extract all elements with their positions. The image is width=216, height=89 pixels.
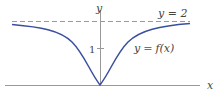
tick-label-1: 1: [89, 44, 95, 55]
x-axis-label: x: [207, 79, 214, 89]
graph: x y 1 y = 2 y=f(x): [0, 0, 216, 89]
asymptote-label: y = 2: [157, 7, 187, 20]
curve-label: y=f(x): [133, 42, 174, 55]
y-axis-label: y: [95, 2, 103, 15]
